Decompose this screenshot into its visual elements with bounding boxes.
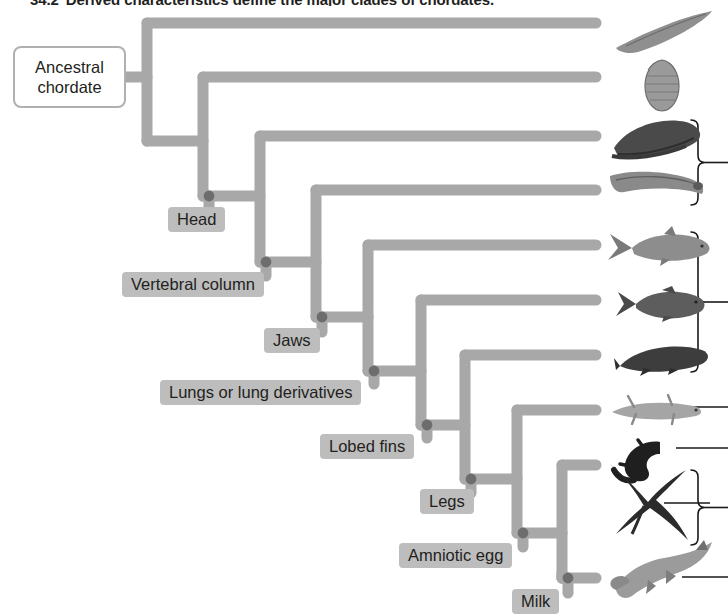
node-dot-lobedfins bbox=[422, 420, 433, 431]
node-label-legs: Legs bbox=[420, 489, 474, 514]
node-label-vertebral: Vertebral column bbox=[122, 272, 264, 297]
bracket-amniotes bbox=[691, 470, 705, 545]
organism-coelacanth bbox=[614, 340, 712, 376]
node-label-amniotic: Amniotic egg bbox=[399, 543, 512, 568]
organism-hagfish bbox=[608, 114, 704, 162]
root-label-line2: chordate bbox=[37, 77, 101, 97]
organism-lamprey bbox=[608, 166, 708, 208]
node-dot-legs bbox=[466, 474, 477, 485]
node-label-lobedfins: Lobed fins bbox=[320, 434, 414, 459]
node-dot-jaws bbox=[317, 312, 328, 323]
node-dot-head bbox=[204, 191, 215, 202]
node-dot-vertebral bbox=[261, 257, 272, 268]
organism-salamander bbox=[606, 390, 706, 426]
node-dot-amniotic bbox=[518, 528, 529, 539]
node-label-jaws: Jaws bbox=[264, 328, 320, 353]
organism-bird bbox=[606, 462, 692, 546]
organism-ray-finned-fish bbox=[616, 286, 708, 322]
node-dot-lungs bbox=[369, 366, 380, 377]
phylogenetic-tree-figure: 34.2Derived characteristics define the m… bbox=[0, 0, 728, 615]
node-label-head: Head bbox=[168, 207, 225, 232]
organism-mammal bbox=[608, 538, 716, 606]
organism-tunicate bbox=[634, 56, 690, 112]
ancestral-chordate-box: Ancestral chordate bbox=[13, 46, 126, 108]
root-label-line1: Ancestral bbox=[35, 57, 104, 77]
node-dot-milk bbox=[563, 573, 574, 584]
organism-shark bbox=[606, 226, 712, 266]
organism-lancelet bbox=[612, 8, 716, 56]
node-label-milk: Milk bbox=[512, 589, 559, 614]
node-label-lungs: Lungs or lung derivatives bbox=[160, 380, 361, 405]
